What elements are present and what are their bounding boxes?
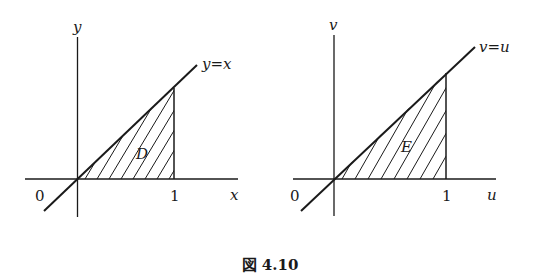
region-d-hatching [85, 79, 229, 179]
region-e-hatching [342, 67, 510, 179]
v-axis-label: v [329, 16, 338, 34]
origin-label: 0 [290, 187, 300, 205]
x-axis-label: x [230, 186, 239, 204]
tick-label-1: 1 [170, 187, 180, 205]
y-axis-label: y [72, 18, 82, 36]
line-label: y=x [201, 55, 232, 73]
region-label-d: D [135, 145, 148, 163]
region-label-e: E [400, 138, 412, 156]
u-axis-label: u [487, 186, 497, 204]
line-label: v=u [479, 38, 510, 56]
right-diagram: v v=u E 0 1 u [290, 16, 510, 216]
origin-label: 0 [35, 187, 45, 205]
tick-label-1: 1 [442, 187, 452, 205]
left-diagram: y y=x D 0 1 x [25, 18, 239, 217]
figure-caption: 図 4.10 [242, 256, 299, 274]
